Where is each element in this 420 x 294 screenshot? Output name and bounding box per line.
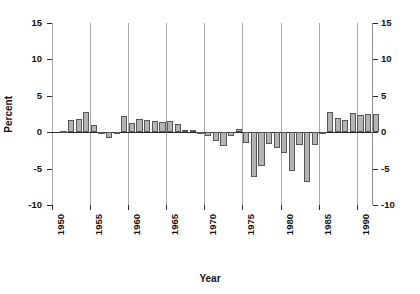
y-tick-label-right-15: 15 <box>381 18 392 28</box>
bar <box>129 123 135 132</box>
bar <box>213 132 219 141</box>
y-tick-label-right-0: 0 <box>381 127 386 137</box>
y-tick-label-right-10: 10 <box>381 54 392 64</box>
y-tick-left-0 <box>47 132 52 133</box>
x-axis-title: Year <box>0 274 420 284</box>
y-tick-right-5 <box>373 96 378 97</box>
y-tick-left-5 <box>47 96 52 97</box>
bar <box>251 132 257 177</box>
y-tick-label-right--10: -10 <box>381 200 395 210</box>
gridline-1980 <box>281 23 282 205</box>
bar <box>190 130 196 132</box>
x-tick-1975 <box>242 205 243 210</box>
bar <box>175 124 181 132</box>
bar <box>236 129 242 132</box>
x-tick-label-1950: 1950 <box>56 214 66 235</box>
x-tick-1950 <box>52 205 53 210</box>
y-tick-left--5 <box>47 169 52 170</box>
x-tick-1985 <box>319 205 320 210</box>
y-tick-label-left--10: -10 <box>28 200 42 210</box>
bar <box>91 125 97 132</box>
bar <box>60 131 66 133</box>
x-tick-label-1990: 1990 <box>361 214 371 235</box>
bar <box>266 132 272 144</box>
bar <box>281 132 287 152</box>
y-tick-label-left-15: 15 <box>31 18 42 28</box>
x-tick-label-1960: 1960 <box>132 214 142 235</box>
x-tick-label-1980: 1980 <box>285 214 295 235</box>
gridline-1950 <box>52 23 53 205</box>
bar <box>335 118 341 132</box>
bar <box>274 132 280 148</box>
bar <box>114 132 120 134</box>
y-tick-right-0 <box>373 132 378 133</box>
bar <box>312 132 318 145</box>
gridline-1985 <box>319 23 320 205</box>
x-tick-label-1965: 1965 <box>170 214 180 235</box>
gridline-1975 <box>242 23 243 205</box>
y-tick-right-15 <box>373 23 378 24</box>
bar <box>220 132 226 146</box>
bar <box>121 116 127 132</box>
y-tick-label-right--5: -5 <box>381 164 389 174</box>
x-tick-label-1955: 1955 <box>94 214 104 235</box>
bar <box>319 132 325 134</box>
y-tick-right--10 <box>373 205 378 206</box>
y-tick-label-left--5: -5 <box>34 164 42 174</box>
bar-chart-figure: Percent 151050-5-10 151050-5-10 19501955… <box>0 0 420 294</box>
bar <box>136 119 142 132</box>
x-tick-1990 <box>357 205 358 210</box>
x-tick-label-1975: 1975 <box>246 214 256 235</box>
bar <box>228 132 234 136</box>
gridline-1960 <box>128 23 129 205</box>
y-axis-title: Percent <box>4 96 14 133</box>
bar <box>357 115 363 132</box>
y-tick-right--5 <box>373 169 378 170</box>
bar <box>152 121 158 132</box>
bar <box>342 120 348 132</box>
x-tick-1965 <box>166 205 167 210</box>
x-tick-1955 <box>90 205 91 210</box>
y-tick-label-left-10: 10 <box>31 54 42 64</box>
bar <box>68 120 74 132</box>
x-tick-1970 <box>204 205 205 210</box>
bar <box>289 132 295 171</box>
bar <box>182 130 188 132</box>
bar <box>243 132 249 143</box>
plot-area <box>52 23 372 205</box>
bar <box>327 112 333 132</box>
y-tick-left-15 <box>47 23 52 24</box>
bar <box>205 132 211 136</box>
y-tick-right-10 <box>373 59 378 60</box>
bar <box>304 132 310 182</box>
bar <box>83 112 89 132</box>
bar <box>365 114 371 132</box>
bar <box>98 132 104 134</box>
bar <box>159 122 165 132</box>
x-tick-1960 <box>128 205 129 210</box>
y-tick-label-left-0: 0 <box>37 127 42 137</box>
bar <box>197 132 203 134</box>
bar <box>144 120 150 132</box>
y-tick-label-right-5: 5 <box>381 91 386 101</box>
x-tick-label-1970: 1970 <box>208 214 218 235</box>
bar <box>76 119 82 132</box>
bar <box>373 114 379 132</box>
gridline-1955 <box>90 23 91 205</box>
x-tick-1980 <box>281 205 282 210</box>
y-tick-left-10 <box>47 59 52 60</box>
bar <box>106 132 112 138</box>
bar <box>258 132 264 165</box>
x-tick-label-1985: 1985 <box>323 214 333 235</box>
gridline-1965 <box>166 23 167 205</box>
bar <box>296 132 302 144</box>
bar <box>350 113 356 132</box>
y-tick-label-left-5: 5 <box>37 91 42 101</box>
bar <box>167 121 173 132</box>
gridline-1970 <box>204 23 205 205</box>
